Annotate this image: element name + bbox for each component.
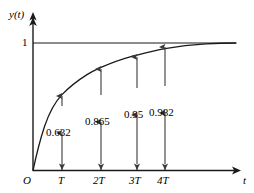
annotation-value-T: 0.632	[46, 127, 71, 138]
annotation-value-2T: 0.865	[85, 116, 110, 127]
x-tick-label-T: T	[58, 175, 64, 186]
annotation-value-4T: 0.982	[149, 107, 174, 118]
origin-label: O	[23, 175, 31, 186]
annotation-value-3T: 0.95	[124, 109, 143, 120]
chart-canvas	[0, 0, 254, 193]
response-curve	[33, 43, 236, 171]
y-axis-label: y(t)	[9, 9, 24, 20]
x-axis-label: t	[243, 175, 246, 186]
y-tick-label-1: 1	[22, 37, 28, 48]
x-tick-label-4T: 4T	[157, 175, 169, 186]
x-tick-label-3T: 3T	[129, 175, 141, 186]
x-tick-label-2T: 2T	[93, 175, 105, 186]
step-response-figure: y(t) t 1 O T 2T 3T 4T 0.632 0.865 0.95 0…	[0, 0, 254, 193]
